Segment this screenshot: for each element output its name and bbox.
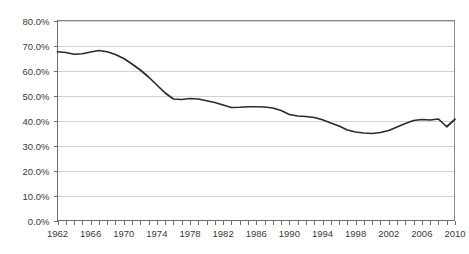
x-tick-label: 1990	[279, 228, 300, 239]
y-tick-label: 50.0%	[23, 91, 50, 102]
x-tick-label: 1994	[312, 228, 333, 239]
y-tick-label: 70.0%	[23, 41, 50, 52]
y-tick-label: 40.0%	[23, 116, 50, 127]
x-tick-label: 1970	[113, 228, 134, 239]
chart-canvas: 0.0%10.0%20.0%30.0%40.0%50.0%60.0%70.0%8…	[0, 0, 469, 254]
line-chart: 0.0%10.0%20.0%30.0%40.0%50.0%60.0%70.0%8…	[0, 0, 469, 254]
y-tick-label: 80.0%	[23, 16, 50, 27]
x-tick-label: 1962	[47, 228, 68, 239]
x-tick-label: 1978	[179, 228, 200, 239]
x-tick-label: 1986	[246, 228, 267, 239]
y-tick-label: 0.0%	[28, 216, 50, 227]
x-tick-label: 2002	[378, 228, 399, 239]
y-tick-label: 10.0%	[23, 191, 50, 202]
x-tick-label: 2006	[411, 228, 432, 239]
x-axis-labels: 1962196619701974197819821986199019941998…	[47, 228, 466, 239]
x-tick-label: 2010	[444, 228, 465, 239]
y-tick-label: 30.0%	[23, 141, 50, 152]
x-tick-label: 1974	[146, 228, 167, 239]
plot-background	[57, 20, 455, 220]
y-tick-label: 60.0%	[23, 66, 50, 77]
x-tick-label: 1966	[80, 228, 101, 239]
x-tick-label: 1998	[345, 228, 366, 239]
y-axis-labels: 0.0%10.0%20.0%30.0%40.0%50.0%60.0%70.0%8…	[23, 16, 50, 227]
x-tick-label: 1982	[213, 228, 234, 239]
y-tick-label: 20.0%	[23, 166, 50, 177]
